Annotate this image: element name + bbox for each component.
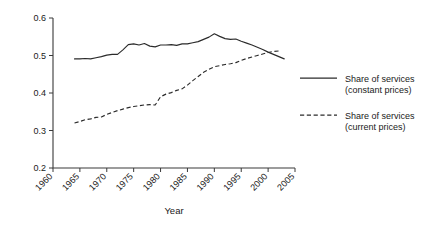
x-tick-label: 1960 [33, 171, 54, 192]
x-tick-label: 1975 [114, 171, 135, 192]
series-line-1 [75, 34, 285, 59]
x-tick-label: 1970 [87, 171, 108, 192]
y-tick-label: 0.5 [33, 51, 46, 61]
y-tick-label: 0.4 [33, 88, 46, 98]
legend-label-2-line1: Share of services [345, 111, 415, 121]
x-tick-label: 1990 [195, 171, 216, 192]
y-tick-label: 0.3 [33, 126, 46, 136]
line-chart: 0.20.30.40.50.61960196519701975198019851… [0, 0, 435, 229]
y-tick-label: 0.6 [33, 13, 46, 23]
legend-label-1-line1: Share of services [345, 74, 415, 84]
y-tick-label: 0.2 [33, 163, 46, 173]
x-tick-label: 1980 [141, 171, 162, 192]
legend-label-2-line2: (current prices) [345, 122, 406, 132]
x-axis-title: Year [164, 205, 183, 216]
axis-lines [53, 18, 295, 168]
legend-label-1-line2: (constant prices) [345, 85, 412, 95]
x-tick-label: 2000 [248, 171, 269, 192]
x-tick-label: 1995 [221, 171, 242, 192]
x-tick-label: 1985 [168, 171, 189, 192]
x-tick-label: 2005 [275, 171, 296, 192]
x-tick-label: 1965 [60, 171, 81, 192]
chart-figure: 0.20.30.40.50.61960196519701975198019851… [0, 0, 435, 229]
series-line-2 [75, 51, 279, 123]
